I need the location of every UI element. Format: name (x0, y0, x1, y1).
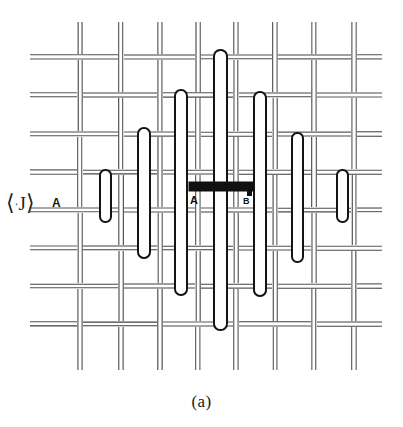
rod (100, 170, 111, 222)
left-site-label: A (52, 196, 61, 210)
rod (254, 92, 266, 296)
rod (292, 133, 303, 262)
bar-endpoint-a-label: A (190, 194, 198, 206)
black-bar (189, 182, 253, 191)
rod (138, 128, 150, 258)
figure-container: ⟨·J⟩ A A B (a) (0, 0, 403, 427)
rod (175, 90, 187, 295)
bar-endpoint-b-label: B (243, 196, 250, 206)
lattice-diagram (0, 0, 403, 427)
rod (337, 170, 348, 222)
figure-caption: (a) (0, 392, 403, 412)
observable-label: ⟨·J⟩ (6, 192, 35, 214)
